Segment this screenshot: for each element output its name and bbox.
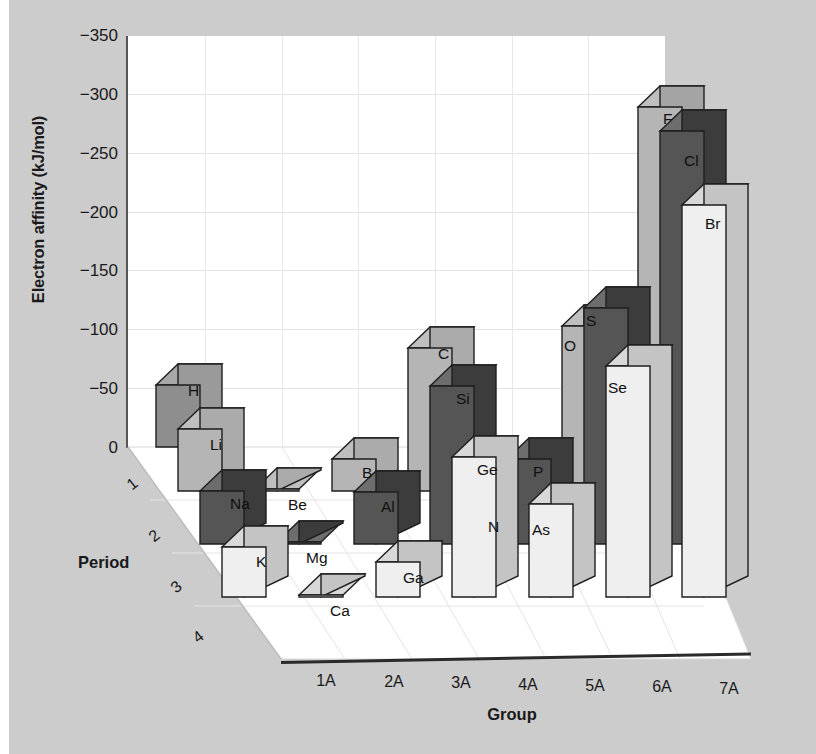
gridline-h [128, 212, 665, 213]
group-tick-5A: 5A [572, 677, 618, 695]
gridline-h [128, 388, 665, 389]
gridline-h [128, 270, 665, 271]
bar-label-Ga: Ga [403, 569, 424, 587]
bar-Al[interactable] [354, 471, 420, 544]
bar-Ca[interactable] [299, 574, 365, 597]
y-tick-350: −350 [18, 26, 118, 46]
y-tick-150: −150 [18, 261, 118, 281]
bar-label-P: P [533, 463, 543, 481]
y-tick-50: −50 [18, 379, 118, 399]
bar-Na[interactable] [200, 470, 266, 544]
gridline-h [128, 94, 665, 95]
y-tick-300: −300 [18, 85, 118, 105]
bar-P[interactable] [507, 438, 573, 544]
bar-Ga[interactable] [376, 541, 442, 597]
group-tick-1A: 1A [303, 672, 349, 690]
period-tick-2: 2 [145, 526, 163, 546]
gridline-v [435, 36, 436, 447]
bar-Ge[interactable] [452, 436, 518, 597]
bar-label-K: K [256, 553, 266, 571]
y-axis-ticks: −350 −300 −250 −200 −150 −100 −50 0 [18, 0, 118, 754]
bar-label-Be: Be [288, 496, 307, 514]
bar-Cl[interactable] [660, 110, 726, 544]
x-axis-line [281, 652, 751, 663]
gridline-v [512, 36, 513, 447]
period-tick-3: 3 [167, 577, 185, 597]
plot-back-wall [128, 36, 665, 447]
bar-label-Br: Br [705, 215, 721, 233]
y-tick-0: 0 [18, 438, 118, 458]
group-tick-4A: 4A [505, 676, 551, 694]
bar-N[interactable] [485, 468, 551, 491]
bar-Br[interactable] [682, 184, 748, 597]
chart-figure: Electron affinity (kJ/mol) −350 −300 −25… [0, 0, 816, 754]
x-axis-title: Group [452, 705, 572, 724]
bar-label-Cl: Cl [684, 152, 699, 170]
bar-label-Al: Al [381, 498, 395, 516]
bar-label-Mg: Mg [306, 549, 328, 567]
bar-label-Na: Na [230, 495, 250, 513]
gridline-v [282, 36, 283, 447]
gridline-h [128, 329, 665, 330]
group-tick-2A: 2A [371, 673, 417, 691]
y-tick-250: −250 [18, 144, 118, 164]
y-tick-200: −200 [18, 203, 118, 223]
group-tick-3A: 3A [438, 674, 484, 692]
bar-Mg[interactable] [277, 521, 343, 544]
gridline-v [588, 36, 589, 447]
figure-left-margin [0, 0, 9, 754]
gridline-h [128, 153, 665, 154]
bar-label-As: As [532, 521, 550, 539]
group-tick-7A: 7A [706, 680, 752, 698]
period-tick-4: 4 [189, 627, 207, 647]
gridline-v [205, 36, 206, 447]
bar-label-B: B [362, 464, 372, 482]
period-tick-1: 1 [123, 474, 141, 494]
y-tick-100: −100 [18, 320, 118, 340]
bar-label-N: N [488, 518, 499, 536]
bar-label-Ca: Ca [330, 602, 350, 620]
group-tick-6A: 6A [639, 678, 685, 696]
bar-Be[interactable] [255, 468, 321, 491]
bar-K[interactable] [222, 526, 288, 597]
bar-As[interactable] [529, 483, 595, 597]
period-axis-title: Period [78, 553, 129, 572]
gridline-v [358, 36, 359, 447]
bar-label-Ge: Ge [477, 461, 498, 479]
